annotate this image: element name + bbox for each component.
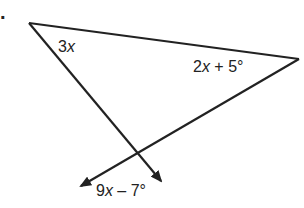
ray-from-top-left — [29, 23, 161, 181]
constant: + 5° — [210, 58, 244, 75]
angle-label-right: 2x + 5° — [193, 59, 243, 75]
coef: 9 — [96, 182, 105, 199]
variable: x — [105, 182, 113, 199]
coef: 3 — [58, 38, 67, 55]
ray-from-right — [81, 59, 299, 186]
variable: x — [202, 58, 210, 75]
variable: x — [67, 38, 75, 55]
constant: – 7° — [113, 182, 146, 199]
angle-label-top-left: 3x — [58, 39, 75, 55]
triangle-figure — [0, 0, 304, 208]
angle-label-bottom: 9x – 7° — [96, 183, 146, 199]
coef: 2 — [193, 58, 202, 75]
